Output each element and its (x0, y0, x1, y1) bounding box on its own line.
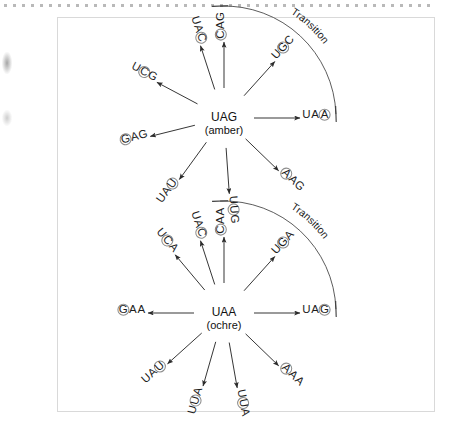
mutation-arrow-uag-aag (246, 139, 279, 171)
base-letter: A (311, 108, 319, 120)
mutation-arrow-uaa-uua-a (203, 342, 216, 386)
variant-codon-uaa-uca: UCA (154, 226, 181, 255)
mutation-arrow-uag-uac (201, 46, 215, 90)
base-letter: U (302, 108, 311, 120)
base-letter: C (195, 227, 209, 239)
variant-codon-uag-uaa: UAA (302, 108, 330, 120)
base-letter: C (195, 32, 209, 44)
base-letter: U (302, 303, 311, 315)
base-letter: A (214, 207, 226, 215)
mutation-arrow-uag-uau (179, 142, 206, 179)
variant-codon-uag-uac: UAC (189, 14, 209, 44)
codon-diagram-ochre: UAA(ochre)UCAUACCAAUGAUAGAAAUUAUUAUAUGAA… (118, 200, 336, 417)
base-letter: U (228, 205, 241, 214)
variant-codon-uag-aag: AAG (278, 165, 307, 193)
base-letter: C (214, 225, 226, 234)
base-letter: C (214, 30, 226, 39)
center-codon-name-ochre: (ochre) (207, 319, 242, 331)
variant-codon-uaa-uga: UGA (269, 228, 296, 257)
variant-codon-uag-uau: UAU (154, 175, 180, 205)
base-letter: A (214, 21, 226, 29)
transition-label-ochre: Transition (289, 200, 331, 241)
variant-codon-uag-cag: CAG (214, 12, 226, 40)
transition-arc-cap-1 (336, 106, 337, 122)
variant-codon-uag-gag: GAG (119, 127, 149, 146)
variant-codon-uaa-uau: UAU (139, 358, 168, 386)
mutation-arrow-uaa-uga (244, 257, 275, 291)
transition-arc-cap-0 (212, 6, 228, 7)
mutation-arrow-uaa-uca (175, 255, 205, 290)
mutation-arrow-uaa-aaa (246, 334, 279, 366)
base-letter: A (321, 108, 329, 120)
base-letter: G (320, 303, 329, 315)
codon-diagram-amber: UAG(amber)UACCAGUGCUAAAAGUUGUAUGAGUCGTra… (119, 5, 337, 224)
transition-arc-cap-0 (212, 201, 228, 202)
base-letter: A (239, 407, 252, 417)
base-letter: G (214, 12, 226, 21)
base-letter: U (227, 195, 240, 204)
variant-codon-uaa-gaa: GAA (118, 303, 146, 315)
base-letter: G (119, 303, 128, 315)
variant-codon-uaa-uag: UAG (302, 303, 330, 315)
mutation-arrow-uaa-uau (168, 333, 202, 364)
center-codon-ochre: UAA (212, 305, 237, 319)
variant-codon-uaa-uac: UAC (189, 209, 209, 239)
base-letter: U (237, 398, 250, 408)
base-letter: G (137, 127, 149, 141)
base-letter: A (311, 303, 319, 315)
transition-label-amber: Transition (289, 5, 331, 46)
variant-codon-uaa-caa: CAA (214, 207, 226, 235)
base-letter: A (138, 303, 146, 315)
variant-codon-uag-uug: UUG (227, 195, 241, 224)
base-letter: A (129, 303, 137, 315)
scanned-page: UAG(amber)UACCAGUGCUAAAAGUUGUAUGAGUCGTra… (0, 0, 458, 432)
mutation-arrow-uag-ucg (157, 82, 198, 104)
mutation-arrow-uaa-uac (201, 241, 215, 285)
base-letter: A (191, 386, 205, 397)
center-codon-amber: UAG (211, 110, 237, 124)
mutation-arrow-uaa-uua-b (229, 343, 237, 388)
base-letter: A (214, 216, 226, 224)
variant-codon-uag-ucg: UCG (130, 60, 160, 84)
mutation-arrow-uag-gag (150, 125, 195, 136)
mutation-arrow-uag-ugc (244, 62, 275, 96)
transition-arc-cap-1 (336, 301, 337, 317)
variant-codon-uag-ugc: UGC (269, 33, 297, 62)
figure-canvas: UAG(amber)UACCAGUGCUAAAAGUUGUAUGAGUCGTra… (0, 0, 458, 432)
mutation-arrow-uag-uug (226, 148, 229, 194)
variant-codon-uaa-aaa: AAA (278, 360, 306, 388)
variant-codon-uaa-uua-b: UUA (235, 388, 252, 417)
base-letter: G (229, 214, 242, 224)
center-codon-name-amber: (amber) (205, 124, 244, 136)
variant-codon-uaa-uua-a: UUA (185, 386, 204, 416)
